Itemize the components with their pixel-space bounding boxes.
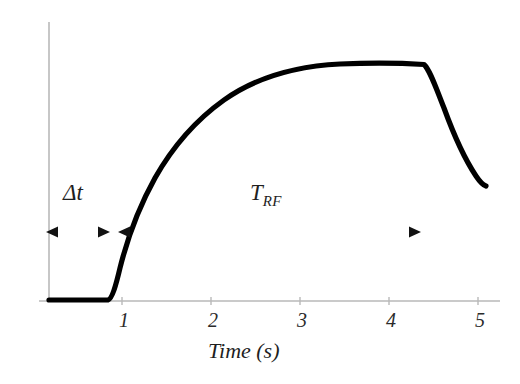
delta-t-label: Δt <box>63 181 83 204</box>
x-tick-label-2: 2 <box>198 310 228 330</box>
delta-t-right-arrow-icon <box>98 227 110 238</box>
figure-canvas: 1 2 3 4 5 Time (s) Δt TRF <box>0 0 520 384</box>
x-axis-title: Time (s) <box>208 340 280 362</box>
t-rf-arrow-markers <box>118 227 421 238</box>
x-tick-label-4: 4 <box>376 310 406 330</box>
t-rf-label-main: T <box>250 180 263 205</box>
t-rf-right-arrow-icon <box>409 227 421 238</box>
x-tick-label-1: 1 <box>109 310 139 330</box>
t-rf-label-subscript: RF <box>263 193 282 209</box>
delta-t-left-arrow-icon <box>46 227 58 238</box>
t-rf-label: TRF <box>250 181 282 209</box>
t-rf-left-arrow-icon <box>118 227 130 238</box>
x-tick-label-3: 3 <box>287 310 317 330</box>
x-tick-label-5: 5 <box>465 310 495 330</box>
delta-t-arrow-markers <box>46 227 110 238</box>
